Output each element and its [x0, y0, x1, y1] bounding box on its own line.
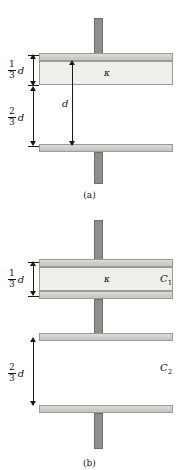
- panel-b-top-stem: [94, 220, 103, 260]
- panel-b-c2-bottom-plate: [39, 405, 173, 413]
- panel-b-c2-top-plate: [39, 333, 173, 341]
- panel-a-gap-arrow-head-up: [69, 60, 75, 65]
- panel-a-kappa-label: κ: [104, 68, 110, 78]
- panel-b-c1-bottom-plate: [39, 291, 173, 299]
- panel-a-dim-bottom-denominator: 3: [8, 118, 16, 127]
- panel-b-dim-bottom-numerator: 2: [8, 363, 16, 372]
- panel-b-dim-top-tick-lower: [28, 296, 39, 297]
- panel-a-dim-top-variable: d: [18, 65, 24, 76]
- panel-a: κ d 1 3 d 2: [0, 0, 179, 200]
- panel-a-dim-bottom-variable: d: [18, 112, 24, 123]
- panel-b-dim-top-denominator: 3: [8, 280, 16, 289]
- panel-a-gap-arrow-line: [72, 63, 73, 145]
- panel-a-gap-arrow-head-down: [69, 141, 75, 146]
- panel-a-dim-top-fraction: 1 3: [8, 60, 16, 80]
- panel-b-dim-bottom-variable: d: [18, 368, 24, 379]
- panel-b-dim-bottom-label: 2 3 d: [8, 363, 24, 383]
- panel-b-c1-label: C1: [160, 273, 172, 287]
- panel-a-dim-top-label: 1 3 d: [8, 60, 24, 80]
- panel-a-dim-bottom-line: [33, 88, 34, 145]
- panel-a-dim-bottom-tick: [28, 146, 39, 147]
- panel-b-c2-letter: C: [160, 362, 168, 373]
- panel-b-dim-top-fraction: 1 3: [8, 269, 16, 289]
- panel-b-dim-bottom-denominator: 3: [8, 374, 16, 383]
- panel-a-dim-top-tick: [28, 55, 39, 56]
- panel-b-dim-top-label: 1 3 d: [8, 269, 24, 289]
- panel-a-dim-top-denominator: 3: [8, 71, 16, 80]
- panel-a-dim-bottom-head-up: [30, 86, 36, 91]
- panel-b: κ C1 C2 1 3 d: [0, 215, 179, 470]
- panel-b-c1-subscript: 1: [168, 279, 172, 287]
- panel-a-gap-label: d: [62, 98, 68, 109]
- panel-a-bottom-plate: [39, 144, 173, 152]
- panel-b-dim-top-variable: d: [18, 274, 24, 285]
- panel-b-bottom-stem: [94, 413, 103, 449]
- panel-a-dim-bottom-fraction: 2 3: [8, 107, 16, 127]
- panel-b-kappa-label: κ: [104, 274, 110, 284]
- panel-b-dim-bottom-line: [33, 339, 34, 405]
- panel-a-dim-bottom-label: 2 3 d: [8, 107, 24, 127]
- panel-b-dim-bottom-head-up: [30, 337, 36, 342]
- panel-b-dim-top-tick: [28, 262, 39, 263]
- capacitor-figure: κ d 1 3 d 2: [0, 0, 179, 470]
- panel-b-c1-top-plate: [39, 259, 173, 267]
- panel-a-top-stem: [94, 18, 103, 54]
- panel-a-dim-bottom-numerator: 2: [8, 107, 16, 116]
- panel-a-caption: (a): [0, 190, 179, 200]
- panel-b-dim-bottom-head-down: [30, 401, 36, 406]
- panel-b-caption: (b): [0, 458, 179, 468]
- panel-a-top-plate: [39, 53, 173, 61]
- panel-b-c2-subscript: 2: [168, 368, 172, 376]
- panel-b-c1-letter: C: [160, 273, 168, 284]
- panel-a-bottom-stem: [94, 152, 103, 184]
- panel-b-dim-bottom-fraction: 2 3: [8, 363, 16, 383]
- panel-b-c2-label: C2: [160, 362, 172, 376]
- panel-b-dim-top-numerator: 1: [8, 269, 16, 278]
- panel-a-dim-top-numerator: 1: [8, 60, 16, 69]
